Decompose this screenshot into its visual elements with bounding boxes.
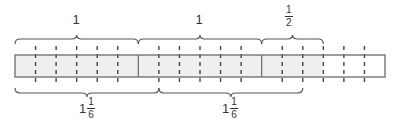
top-label-whole-2: 1: [195, 13, 202, 26]
fraction-bar-diagram: 1 1 1 2 1 1 6 1 1 6: [0, 0, 400, 126]
top-brace-whole-1: [15, 35, 138, 44]
top-brace-half: [262, 35, 324, 44]
denominator: 6: [88, 109, 94, 120]
denominator: 2: [286, 17, 292, 28]
top-brace-whole-2: [138, 35, 261, 44]
bottom-label-mixed-2: 1 1 6: [222, 97, 238, 120]
bottom-brace-mixed-1: [15, 88, 159, 97]
numerator: 1: [87, 97, 95, 109]
top-label-half: 1 2: [285, 5, 293, 28]
numerator: 1: [230, 97, 238, 109]
shaded-region: [15, 55, 323, 77]
top-label-whole-1: 1: [72, 13, 79, 26]
mixed-fraction: 1 6: [230, 97, 238, 120]
mixed-whole: 1: [222, 102, 229, 115]
denominator: 6: [231, 109, 237, 120]
mixed-fraction: 1 6: [87, 97, 95, 120]
fraction-one-half: 1 2: [285, 5, 293, 28]
mixed-whole: 1: [79, 102, 86, 115]
numerator: 1: [285, 5, 293, 17]
bottom-label-mixed-1: 1 1 6: [79, 97, 95, 120]
